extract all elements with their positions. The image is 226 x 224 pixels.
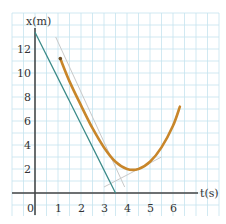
x-tick-label: 1	[55, 202, 62, 215]
position-curve	[60, 59, 180, 170]
y-tick-label: 6	[24, 115, 31, 128]
y-tick-label: 8	[24, 91, 31, 104]
curve-start-point	[59, 57, 63, 61]
x-axis-label: t(s)	[200, 187, 219, 200]
grid	[12, 13, 219, 216]
secant-line	[56, 37, 125, 187]
x-tick-label: 4	[124, 202, 131, 215]
x-tick-label: 3	[101, 202, 108, 215]
y-tick-label: 10	[17, 67, 31, 80]
tick-labels: 012345624681012	[17, 43, 177, 215]
x-tick-label: 2	[78, 202, 85, 215]
y-tick-label: 12	[17, 43, 31, 56]
position-time-chart: 012345624681012 x(m) t(s)	[0, 0, 226, 224]
y-tick-label: 2	[24, 163, 31, 176]
x-tick-label: 0	[27, 202, 34, 215]
x-tick-label: 6	[170, 202, 177, 215]
y-axis-label: x(m)	[26, 15, 51, 28]
x-tick-label: 5	[147, 202, 154, 215]
y-tick-label: 4	[24, 139, 31, 152]
